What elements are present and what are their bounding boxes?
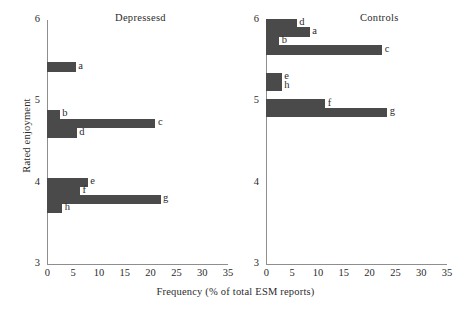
bar-label-controls-a: a <box>312 25 317 36</box>
x-tick-label-15-controls: 15 <box>333 267 355 278</box>
y-tick-label-4: 4 <box>24 176 40 187</box>
panel-title-controls: Controls <box>360 12 399 23</box>
y-axis-line <box>47 20 48 265</box>
y-tick-label-6-controls: 6 <box>243 13 259 24</box>
bar-depressed-h <box>47 204 63 214</box>
bar-label-controls-b: b <box>282 34 287 45</box>
x-tick-35-controls <box>0 33 1 37</box>
x-axis-line-controls <box>266 264 447 265</box>
y-axis-line-controls <box>266 20 267 265</box>
x-tick-label-20-controls: 20 <box>359 267 381 278</box>
bar-label-controls-c: c <box>385 43 390 54</box>
x-tick-label-20: 20 <box>140 267 162 278</box>
x-tick-label-5-controls: 5 <box>281 267 303 278</box>
x-tick-label-35: 35 <box>217 267 239 278</box>
bar-depressed-a <box>47 62 76 72</box>
y-tick-label-5: 5 <box>24 94 40 105</box>
x-tick-label-5: 5 <box>62 267 84 278</box>
x-tick-label-10: 10 <box>88 267 110 278</box>
bar-label-controls-h: h <box>284 79 289 90</box>
bar-depressed-d <box>47 128 77 138</box>
bar-label-controls-g: g <box>390 105 395 116</box>
bar-controls-g <box>266 108 388 118</box>
panel-title-depressed: Depressesd <box>115 12 166 23</box>
bar-label-depressed-b: b <box>62 107 67 118</box>
x-tick-label-35-controls: 35 <box>436 267 458 278</box>
bar-label-depressed-c: c <box>158 116 163 127</box>
x-tick-label-0: 0 <box>36 267 58 278</box>
x-tick-label-30-controls: 30 <box>410 267 432 278</box>
x-tick-label-25: 25 <box>166 267 188 278</box>
bar-depressed-c <box>47 119 156 129</box>
bar-label-depressed-h: h <box>65 201 70 212</box>
x-axis-label: Frequency (% of total ESM reports) <box>0 286 471 297</box>
bar-label-depressed-g: g <box>163 192 168 203</box>
y-tick-label-5-controls: 5 <box>243 94 259 105</box>
x-tick-label-25-controls: 25 <box>385 267 407 278</box>
bar-label-depressed-a: a <box>78 60 83 71</box>
x-tick-label-0-controls: 0 <box>255 267 277 278</box>
x-tick-label-15: 15 <box>114 267 136 278</box>
bar-label-controls-d: d <box>299 16 304 27</box>
x-tick-label-30: 30 <box>191 267 213 278</box>
bar-label-depressed-f: f <box>82 184 86 195</box>
y-tick-label-6: 6 <box>24 13 40 24</box>
y-tick-label-4-controls: 4 <box>243 176 259 187</box>
x-axis-line <box>47 264 228 265</box>
bar-label-depressed-d: d <box>79 126 84 137</box>
bar-controls-c <box>266 45 382 55</box>
panel-controls: Controls 6 5 4 3 0 5 10 15 20 25 30 35 d… <box>0 0 4 313</box>
x-tick-label-10-controls: 10 <box>307 267 329 278</box>
figure: Rated enjoyment Frequency (% of total ES… <box>0 0 471 313</box>
bar-label-depressed-e: e <box>90 175 95 186</box>
bar-label-controls-f: f <box>328 97 332 108</box>
bar-controls-h <box>266 82 282 92</box>
